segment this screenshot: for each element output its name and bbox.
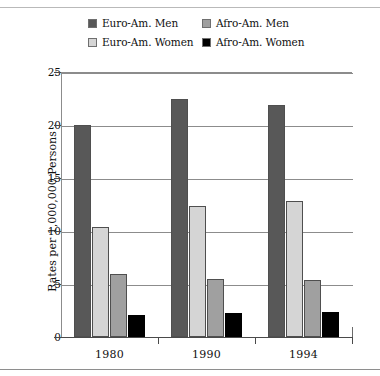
bar <box>322 312 339 337</box>
legend-item: Afro-Am. Women <box>202 37 320 48</box>
y-tick-mark <box>54 284 61 285</box>
y-tick-mark <box>54 72 61 73</box>
x-tick-label: 1994 <box>264 348 344 361</box>
bar <box>171 99 188 338</box>
legend-item: Euro-Am. Men <box>88 18 202 29</box>
y-axis: Rates per 1,000,000 Persons 0510152025 <box>31 0 61 376</box>
legend-item: Euro-Am. Women <box>88 37 202 48</box>
legend-label: Afro-Am. Women <box>216 37 304 48</box>
legend-label: Afro-Am. Men <box>216 18 289 29</box>
bar <box>207 279 224 337</box>
chart-legend: Euro-Am. MenAfro-Am. MenEuro-Am. WomenAf… <box>88 14 320 52</box>
x-tick-mark <box>255 337 256 344</box>
legend-label: Euro-Am. Men <box>102 18 178 29</box>
x-tick-label: 1980 <box>70 348 150 361</box>
bar <box>110 274 127 337</box>
legend-swatch-icon <box>202 19 211 28</box>
bar <box>304 280 321 337</box>
y-tick-mark <box>54 231 61 232</box>
legend-label: Euro-Am. Women <box>102 37 193 48</box>
y-tick-mark <box>54 178 61 179</box>
bar <box>268 105 285 337</box>
bar <box>92 227 109 337</box>
bar <box>286 201 303 337</box>
bar <box>128 315 145 337</box>
bottom-divider-rule <box>0 369 380 370</box>
legend-swatch-icon <box>88 19 97 28</box>
x-tick-mark <box>352 337 353 344</box>
x-axis-line <box>61 337 353 338</box>
bar <box>74 125 91 337</box>
legend-item: Afro-Am. Men <box>202 18 320 29</box>
bars-layer <box>61 72 353 337</box>
x-tick-label: 1990 <box>167 348 247 361</box>
y-tick-mark <box>54 125 61 126</box>
x-tick-mark <box>158 337 159 344</box>
y-tick-mark <box>54 337 61 338</box>
legend-swatch-icon <box>88 38 97 47</box>
bar <box>189 206 206 337</box>
bar <box>225 313 242 337</box>
legend-swatch-icon <box>202 38 211 47</box>
